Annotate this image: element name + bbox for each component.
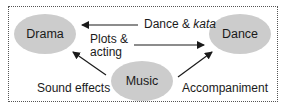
plots-acting-edge-label: Plots & acting	[90, 33, 128, 59]
drama-node-label: Drama	[26, 27, 64, 41]
dance-kata-edge-label: Dance & kata	[144, 18, 216, 31]
music-node-label: Music	[126, 74, 159, 88]
plots-acting-edge-label-line2: acting	[90, 46, 128, 59]
accompaniment-edge-label: Accompaniment	[182, 82, 268, 95]
dance-kata-edge-label-italic: kata	[193, 17, 216, 31]
sound-effects-edge-label: Sound effects	[37, 82, 110, 95]
music-to-dance-arrow	[178, 52, 212, 77]
dance-kata-edge-label-main: Dance &	[144, 17, 193, 31]
dance-node-label: Dance	[222, 27, 258, 41]
